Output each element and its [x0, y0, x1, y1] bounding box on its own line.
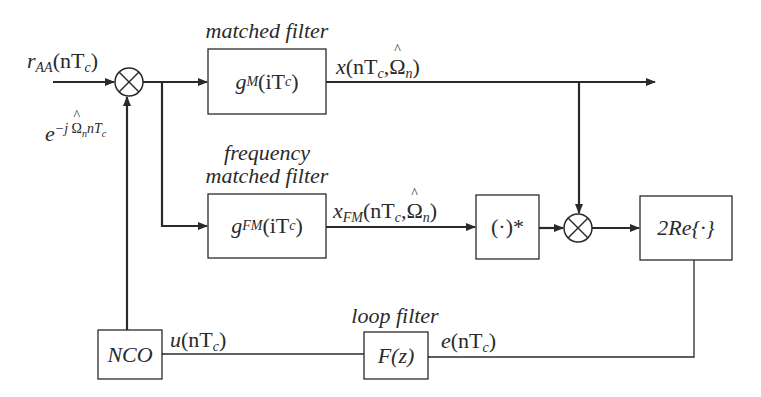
mixer2-icon	[564, 214, 592, 242]
fm-filter-label: gFM(iTc)	[208, 194, 326, 258]
loop-filter-label: F(z)	[364, 332, 428, 379]
nco-label: NCO	[98, 330, 162, 379]
mixer1-icon	[115, 68, 143, 96]
control-signal-label: u(nTc)	[170, 329, 226, 354]
fm-filter-caption-line1: frequency	[200, 142, 334, 164]
input-signal-label: rAA(nTc)	[27, 50, 98, 75]
fm-filter-caption-line2: matched filter	[200, 165, 334, 187]
matched-filter-caption: matched filter	[200, 20, 334, 42]
conjugate-label: (·)*	[476, 195, 539, 259]
error-signal-label: e(nTc)	[441, 330, 496, 355]
matched-filter-label: gM(iTc)	[208, 49, 326, 114]
real-part-label: 2Re{·}	[640, 196, 732, 260]
mixer1-feedback-label: e−j ΩnnTc	[45, 122, 106, 145]
loop-filter-caption: loop filter	[330, 305, 460, 327]
mf-output-label: x(nTc,Ωn)	[336, 56, 420, 81]
fmf-output-label: xFM(nTc,Ωn)	[333, 200, 437, 225]
